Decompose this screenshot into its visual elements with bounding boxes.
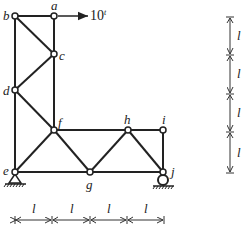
label-h: h <box>124 112 131 127</box>
node-g <box>87 169 93 175</box>
dim-h-1: l <box>32 201 36 216</box>
dim-v-3: l <box>237 105 241 120</box>
label-a: a <box>51 0 58 13</box>
label-g: g <box>86 177 93 192</box>
node-d <box>12 87 18 93</box>
dim-h-2: l <box>70 201 74 216</box>
label-f: f <box>58 115 64 130</box>
dim-v-1: l <box>237 28 241 43</box>
node-j <box>160 169 166 175</box>
member-b-c <box>15 16 54 54</box>
dim-v-4: l <box>237 145 241 160</box>
label-i: i <box>162 112 166 127</box>
truss-members <box>15 16 163 172</box>
label-b: b <box>3 8 10 23</box>
label-d: d <box>3 83 10 98</box>
member-h-j <box>128 130 163 172</box>
label-c: c <box>59 48 65 63</box>
node-b <box>12 13 18 19</box>
node-i <box>160 127 166 133</box>
node-f <box>51 127 57 133</box>
dim-h-3: l <box>107 201 111 216</box>
member-d-f <box>15 90 54 130</box>
member-e-f <box>15 130 54 172</box>
truss-diagram: 10t a b c d e f g h i j <box>0 0 245 232</box>
load-label: 10t <box>90 8 107 23</box>
node-e <box>12 169 18 175</box>
label-j: j <box>169 164 175 179</box>
vertical-dimensions: l l l l <box>226 17 241 173</box>
horizontal-dimensions: l l l l <box>15 201 164 224</box>
node-h <box>125 127 131 133</box>
member-g-h <box>90 130 128 172</box>
load-arrow: 10t <box>58 8 107 23</box>
member-c-d <box>15 54 54 90</box>
dim-h-4: l <box>144 201 148 216</box>
label-e: e <box>3 163 9 178</box>
node-a <box>51 13 57 19</box>
dim-v-2: l <box>237 66 241 81</box>
node-c <box>51 51 57 57</box>
member-f-g <box>54 130 90 172</box>
